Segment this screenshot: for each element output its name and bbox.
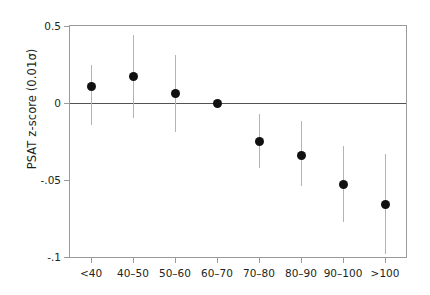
x-axis-tick (133, 257, 134, 263)
x-axis-tick-label: 40–50 (117, 267, 149, 279)
x-axis-tick (385, 257, 386, 263)
x-axis-tick (301, 257, 302, 263)
x-axis-tick (343, 257, 344, 263)
data-point (213, 99, 222, 108)
data-point (87, 82, 96, 91)
x-axis-tick (91, 257, 92, 263)
data-point (255, 137, 264, 146)
zero-reference-line (70, 103, 406, 104)
y-axis-tick-label: 0.5 (44, 20, 61, 32)
x-axis-tick-label: 80–90 (285, 267, 317, 279)
y-axis-tick (64, 257, 70, 258)
x-axis-tick-label: >100 (371, 267, 400, 279)
data-point (129, 72, 138, 81)
x-axis-tick-label: 70–80 (243, 267, 275, 279)
y-axis-title: PSAT z-score (0.01σ) (25, 19, 39, 199)
x-axis-tick-label: 50–60 (159, 267, 191, 279)
x-axis-tick-label: 60–70 (201, 267, 233, 279)
y-axis-tick-label: -.05 (41, 174, 62, 186)
chart-figure: PSAT z-score (0.01σ) 0.50-.05-.1<4040–50… (0, 0, 430, 295)
x-axis-tick-label: <40 (80, 267, 102, 279)
x-axis-tick (175, 257, 176, 263)
data-point (381, 200, 390, 209)
y-axis-tick-label: 0 (54, 97, 61, 109)
y-axis-tick-label: -.1 (47, 251, 61, 263)
data-point (171, 89, 180, 98)
x-axis-tick-label: 90–100 (324, 267, 363, 279)
y-axis-tick (64, 103, 70, 104)
error-bar (91, 65, 92, 125)
data-point (297, 151, 306, 160)
data-point (339, 180, 348, 189)
y-axis-tick (64, 180, 70, 181)
y-axis-tick (64, 26, 70, 27)
x-axis-tick (259, 257, 260, 263)
x-axis-tick (217, 257, 218, 263)
plot-area: 0.50-.05-.1<4040–5050–6060–7070–8080–909… (69, 25, 407, 258)
